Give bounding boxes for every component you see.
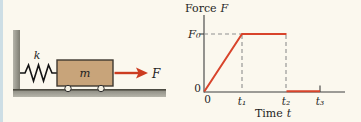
y-axis-title: ForceF — [185, 2, 229, 15]
spring-constant-label: k — [34, 49, 41, 62]
y-origin-label: 0 — [194, 82, 201, 94]
force-time-graph: ForceF F₀ 0 0 t₁ t₂ t₃ Timet — [178, 0, 361, 122]
mass-label: m — [80, 66, 91, 80]
t2-label: t₂ — [282, 95, 290, 107]
wall — [13, 30, 20, 89]
x-origin-label: 0 — [204, 93, 211, 105]
t1-label: t₁ — [238, 95, 246, 107]
spring — [20, 65, 57, 81]
apparatus-figure: k m F — [0, 0, 175, 122]
floor-top-edge — [13, 89, 166, 91]
force-label: F — [151, 67, 161, 81]
f0-label: F₀ — [187, 27, 201, 41]
wheel-right — [98, 85, 104, 91]
wheel-left — [65, 85, 71, 91]
t3-label: t₃ — [316, 95, 324, 107]
textbook-figure: k m F ForceF F₀ 0 0 t₁ t₂ t₃ Timet — [0, 0, 361, 122]
force-curve-ramp-and-plateau — [204, 34, 286, 92]
x-axis-title: Timet — [255, 107, 292, 120]
